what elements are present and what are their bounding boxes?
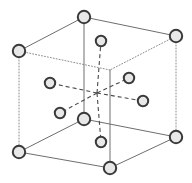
edge-bot-front-left-to-bot-back-left xyxy=(19,152,110,168)
bond-center-to-left-face xyxy=(50,83,97,93)
atom-face-lower-left xyxy=(55,108,65,118)
edge-bot-back-left-to-bot-back-right xyxy=(19,119,84,152)
center-bonds-group xyxy=(50,41,143,142)
crystal-lattice-diagram xyxy=(0,0,192,183)
atom-corner-top-front-right xyxy=(170,30,182,42)
atom-corner-bot-back-right xyxy=(78,113,90,125)
atom-corner-bot-front-right xyxy=(170,131,182,143)
edge-top-back-left-to-top-back-right xyxy=(19,17,84,51)
atom-corner-top-back-left xyxy=(13,45,25,57)
atom-corner-bot-back-left xyxy=(13,146,25,158)
bond-center-to-right-face xyxy=(97,93,143,101)
bond-center-to-lower-face xyxy=(97,93,101,142)
atom-corner-bot-front-left xyxy=(104,162,116,174)
edge-bot-back-right-to-bot-front-right xyxy=(84,119,176,137)
edge-top-front-left-to-top-back-left xyxy=(19,51,110,70)
crystal-lattice-figure xyxy=(0,0,192,183)
atom-face-upper xyxy=(96,36,106,46)
atom-face-left xyxy=(45,78,55,88)
atom-face-upper-right xyxy=(124,73,134,83)
edge-top-front-right-to-top-front-left xyxy=(110,36,176,70)
edge-top-back-right-to-top-front-right xyxy=(84,17,176,36)
edge-bot-front-right-to-bot-front-left xyxy=(110,137,176,168)
atom-face-lower xyxy=(96,137,106,147)
atom-face-right xyxy=(138,96,148,106)
atom-corner-top-back-right xyxy=(78,11,90,23)
bond-center-to-lower-left-face xyxy=(60,93,97,113)
